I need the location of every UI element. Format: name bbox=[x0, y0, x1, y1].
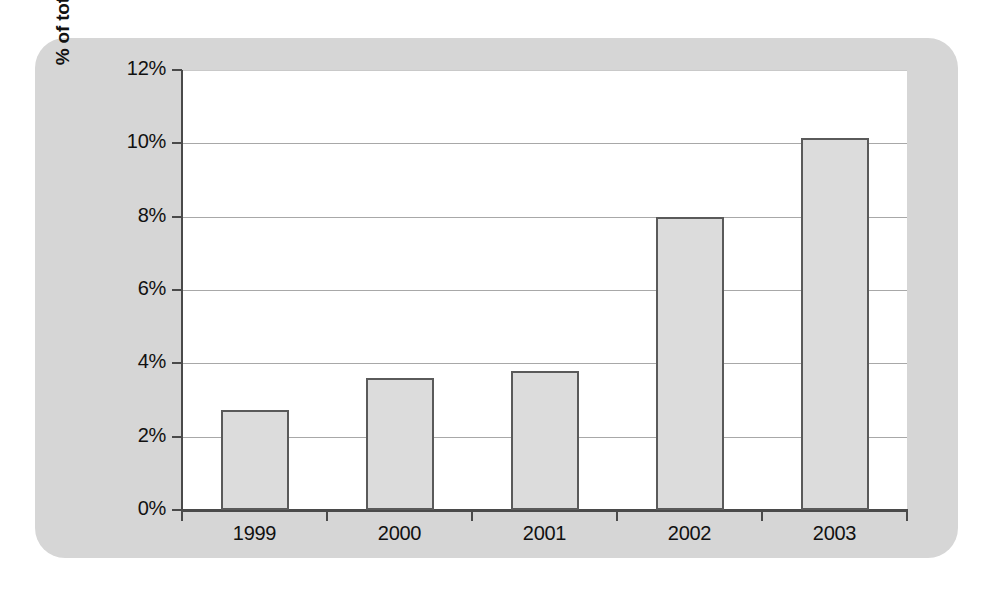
y-axis-line bbox=[181, 70, 183, 512]
y-tick-label-4%: 4% bbox=[100, 350, 166, 373]
bar-2001 bbox=[511, 371, 579, 510]
y-tick-mark-12% bbox=[172, 69, 182, 71]
y-tick-label-12%: 12% bbox=[100, 57, 166, 80]
x-tick-mark-5 bbox=[906, 510, 908, 521]
x-tick-mark-3 bbox=[616, 510, 618, 521]
bar-1999 bbox=[221, 410, 289, 510]
figure-root: 0%2%4%6%8%10%12% 19992000200120022003 % … bbox=[0, 0, 998, 589]
y-tick-mark-6% bbox=[172, 289, 182, 291]
gridline-8% bbox=[182, 217, 907, 218]
gridline-4% bbox=[182, 363, 907, 364]
y-tick-mark-8% bbox=[172, 216, 182, 218]
x-tick-label-2000: 2000 bbox=[330, 522, 470, 545]
y-tick-label-8%: 8% bbox=[100, 204, 166, 227]
x-tick-mark-1 bbox=[326, 510, 328, 521]
x-tick-mark-2 bbox=[471, 510, 473, 521]
x-tick-label-2003: 2003 bbox=[765, 522, 905, 545]
y-tick-mark-10% bbox=[172, 142, 182, 144]
y-tick-label-6%: 6% bbox=[100, 277, 166, 300]
bar-chart: 0%2%4%6%8%10%12% 19992000200120022003 % … bbox=[0, 0, 998, 589]
bar-2003 bbox=[801, 138, 869, 510]
gridline-6% bbox=[182, 290, 907, 291]
y-axis-title: % of total respondents bbox=[52, 0, 76, 130]
y-tick-mark-4% bbox=[172, 362, 182, 364]
y-axis-title-text: % of total respondents bbox=[52, 0, 74, 130]
y-tick-label-0%: 0% bbox=[100, 497, 166, 520]
gridline-10% bbox=[182, 143, 907, 144]
bar-2000 bbox=[366, 378, 434, 510]
x-tick-label-1999: 1999 bbox=[185, 522, 325, 545]
x-tick-label-2001: 2001 bbox=[475, 522, 615, 545]
gridline-12% bbox=[182, 70, 907, 71]
x-tick-mark-0 bbox=[181, 510, 183, 521]
x-tick-label-2002: 2002 bbox=[620, 522, 760, 545]
y-tick-label-2%: 2% bbox=[100, 424, 166, 447]
y-tick-label-10%: 10% bbox=[100, 130, 166, 153]
bar-2002 bbox=[656, 217, 724, 510]
x-tick-mark-4 bbox=[761, 510, 763, 521]
y-tick-mark-2% bbox=[172, 436, 182, 438]
